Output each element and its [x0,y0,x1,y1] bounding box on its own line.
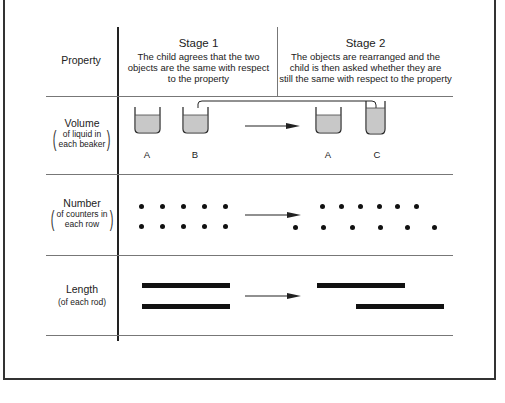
left-paren: ( [51,209,55,229]
stage1-title: Stage 1 [120,37,277,50]
rod-bottom-stage1 [142,304,230,309]
beaker-label-a-stage2: A [318,149,338,160]
beaker-label-a-stage1: A [137,149,157,160]
counter-dot [181,224,186,229]
property-volume: Volume ( of liquid in each beaker ) [32,117,132,149]
stage2-description: The objects are rearranged and the child… [278,51,453,84]
rod-top-stage1 [142,283,230,288]
stage2-title: Stage 2 [278,37,453,50]
counter-dot [223,224,228,229]
number-transform-arrow-icon [244,210,304,220]
counter-dot [160,224,165,229]
property-number: Number ( of counters in each row ) [32,197,132,229]
property-header: Property [46,54,116,66]
beaker-a-stage1-icon [135,107,160,133]
row-divider-3 [46,335,453,336]
property-length: Length (of each rod) [32,283,132,307]
counter-dot [139,204,144,209]
counter-dot [202,204,207,209]
row-divider-1 [46,174,453,175]
counter-dot [350,225,355,230]
counter-dot [139,224,144,229]
counter-dot [395,204,400,209]
counter-dot [321,225,326,230]
right-paren: ) [109,209,113,229]
rod-bottom-stage2 [356,304,444,309]
pour-arrow-icon [198,101,379,117]
counter-dot [377,204,382,209]
counter-dot [378,225,383,230]
row-divider-2 [46,255,453,256]
stage1-description: The child agrees that the two objects ar… [120,51,277,84]
counter-dot [432,225,437,230]
counter-dot [181,204,186,209]
counter-dot [405,225,410,230]
counter-dot [358,204,363,209]
counter-dot [339,204,344,209]
beaker-a-stage2-icon [316,107,341,133]
counter-dot [223,204,228,209]
counter-dot [293,225,298,230]
counter-dot [202,224,207,229]
right-paren: ) [107,129,111,149]
length-transform-arrow-icon [244,291,304,301]
counter-dot [160,204,165,209]
beaker-b-stage1-icon [183,107,208,133]
volume-diagram [118,97,458,174]
left-paren: ( [53,129,57,149]
beaker-label-b-stage1: B [185,149,205,160]
beaker-label-c-stage2: C [367,149,387,160]
counter-dot [414,204,419,209]
transform-arrow-icon [245,123,300,129]
counter-dot [320,204,325,209]
rod-top-stage2 [317,283,405,288]
